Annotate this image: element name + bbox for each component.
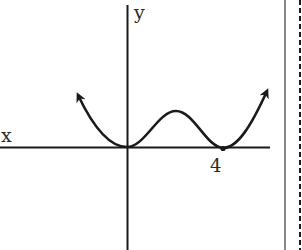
x-axis-label: x [1, 124, 12, 146]
x-tick-label-4: 4 [210, 155, 221, 176]
graph-figure: y x 4 [0, 0, 302, 250]
curve-right-branch [223, 91, 267, 148]
curve-left-branch [78, 95, 127, 147]
y-axis-label: y [133, 1, 145, 23]
point-x4-dot [220, 146, 225, 151]
curve-middle-hump [127, 111, 223, 148]
